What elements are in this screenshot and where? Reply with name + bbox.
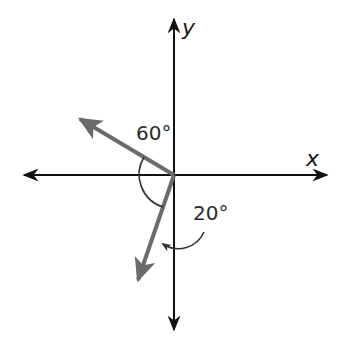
angle-arc-20 — [163, 232, 204, 249]
x-axis-label: x — [305, 146, 320, 171]
angle-label-20: 20° — [193, 201, 228, 225]
y-axis-label: y — [181, 15, 196, 40]
angle-label-60: 60° — [136, 121, 171, 145]
coordinate-diagram: x y 60° 20° — [0, 0, 342, 343]
